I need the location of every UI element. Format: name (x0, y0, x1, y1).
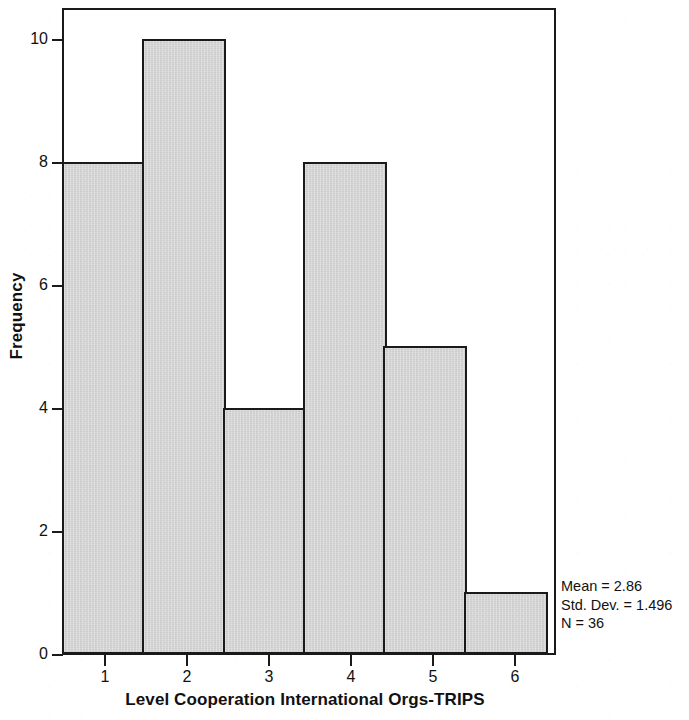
y-axis-tick-label: 2 (8, 523, 48, 539)
bars-layer (62, 8, 556, 655)
x-axis-tick-label: 5 (418, 668, 448, 685)
y-axis-tick (52, 39, 63, 41)
y-axis-tick-label: 0 (8, 646, 48, 662)
x-axis-tick-label: 6 (500, 668, 530, 685)
x-axis-tick (432, 655, 434, 666)
histogram-bar (223, 408, 307, 654)
x-axis-tick-label: 4 (336, 668, 366, 685)
x-axis-tick (350, 655, 352, 666)
stat-n: N = 36 (561, 614, 672, 633)
x-axis-tick (186, 655, 188, 666)
y-axis-tick (52, 654, 63, 656)
y-axis-tick-label: 10 (8, 31, 48, 47)
histogram-bar (62, 162, 146, 654)
y-axis-tick-label: 4 (8, 400, 48, 416)
x-axis-tick-label: 3 (254, 668, 284, 685)
histogram-bar (142, 39, 226, 654)
histogram-bar (383, 346, 467, 654)
x-axis-title: Level Cooperation International Orgs-TRI… (0, 690, 610, 710)
x-axis-tick (104, 655, 106, 666)
y-axis-tick-label: 8 (8, 154, 48, 170)
x-axis-tick (514, 655, 516, 666)
y-axis-tick (52, 285, 63, 287)
x-axis-tick (268, 655, 270, 666)
histogram-bar (303, 162, 387, 654)
stat-mean: Mean = 2.86 (561, 577, 672, 596)
y-axis-tick (52, 531, 63, 533)
x-axis-tick-label: 1 (90, 668, 120, 685)
statistics-annotation: Mean = 2.86 Std. Dev. = 1.496 N = 36 (561, 577, 672, 633)
stat-std-dev: Std. Dev. = 1.496 (561, 596, 672, 615)
x-axis-tick-label: 2 (172, 668, 202, 685)
y-axis-tick-label: 6 (8, 277, 48, 293)
histogram-figure: Frequency 10 8 6 4 2 0 1 2 3 4 5 6 Level… (0, 0, 689, 720)
y-axis-tick (52, 162, 63, 164)
y-axis-title: Frequency (7, 256, 27, 376)
histogram-bar (464, 592, 548, 654)
y-axis-tick (52, 408, 63, 410)
